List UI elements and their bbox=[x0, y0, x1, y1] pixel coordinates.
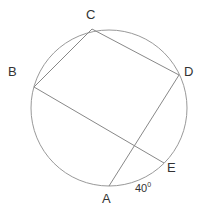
degree-sup: 0 bbox=[147, 181, 151, 188]
label-c: C bbox=[86, 7, 95, 22]
label-a: A bbox=[102, 191, 111, 206]
chord-be bbox=[34, 87, 164, 163]
circle-diagram: C B D E A 400 bbox=[0, 0, 207, 211]
angle-label: 400 bbox=[135, 181, 151, 194]
angle-value: 40 bbox=[135, 182, 147, 194]
label-b: B bbox=[8, 64, 17, 79]
chord-cd bbox=[92, 29, 179, 75]
label-e: E bbox=[167, 160, 176, 175]
label-d: D bbox=[184, 64, 193, 79]
chord-bc bbox=[34, 29, 92, 87]
